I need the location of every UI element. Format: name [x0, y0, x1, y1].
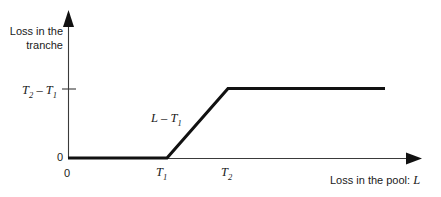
x-tick-label-t1: T1 [156, 164, 167, 182]
y-axis-label-line2: tranche [26, 39, 63, 51]
y-tick-label-operator: – [33, 83, 46, 97]
y-tick-label-var2: T [46, 83, 53, 97]
y-axis-label: Loss in the tranche [0, 24, 63, 52]
tranche-loss-payoff-figure: Loss in the tranche T2 – T1 0 0 T1 T2 L … [0, 0, 441, 197]
payoff-curve [68, 89, 385, 159]
y-tick-label-var1: T [22, 83, 29, 97]
y-tick-label-sub2: 1 [53, 90, 57, 100]
slope-annotation-sub2: 1 [177, 118, 181, 128]
x-tick-label-t1-sub: 1 [163, 172, 167, 182]
y-axis-label-line1: Loss in the [10, 25, 63, 37]
slope-annotation-var1: L [151, 111, 158, 125]
slope-annotation-operator: – [158, 111, 171, 125]
slope-annotation-l-minus-t1: L – T1 [151, 110, 182, 128]
x-axis-label-variable: L [413, 173, 420, 187]
y-tick-label-zero: 0 [0, 150, 63, 164]
x-axis-label-text: Loss in the pool: [330, 174, 413, 186]
x-tick-label-t1-var: T [156, 165, 163, 179]
x-tick-label-zero: 0 [64, 166, 70, 180]
x-axis-arrowhead [406, 153, 422, 165]
x-axis-label: Loss in the pool: L [330, 172, 420, 188]
x-tick-label-t2-sub: 2 [228, 172, 232, 182]
x-tick-label-t2: T2 [221, 164, 232, 182]
y-tick-label-t2-minus-t1: T2 – T1 [0, 82, 57, 100]
x-tick-label-t2-var: T [221, 165, 228, 179]
y-axis-arrowhead [63, 10, 74, 27]
